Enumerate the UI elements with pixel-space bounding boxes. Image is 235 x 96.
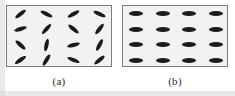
- texture-element-lozenge: [129, 27, 143, 32]
- texture-element-lozenge: [129, 11, 143, 16]
- texture-element-lozenge: [182, 58, 196, 63]
- caption-panel-a: (a): [6, 72, 112, 90]
- texture-element-lozenge: [209, 42, 223, 47]
- texture-element-lozenge: [43, 38, 50, 52]
- panel-b-element-array: [123, 6, 227, 66]
- texture-element-lozenge: [42, 54, 52, 67]
- texture-element-lozenge: [95, 38, 105, 51]
- texture-element-lozenge: [93, 55, 106, 66]
- texture-element-lozenge: [66, 41, 80, 48]
- texture-element-lozenge: [66, 56, 80, 65]
- panel-a-element-array: [7, 6, 111, 66]
- texture-element-lozenge: [182, 11, 196, 16]
- texture-element-lozenge: [209, 58, 223, 63]
- texture-element-lozenge: [182, 42, 196, 47]
- texture-element-lozenge: [156, 11, 170, 16]
- texture-element-lozenge: [40, 9, 53, 18]
- texture-element-lozenge: [156, 42, 170, 47]
- texture-element-lozenge: [129, 58, 143, 63]
- texture-element-lozenge: [129, 42, 143, 47]
- texture-element-lozenge: [67, 9, 80, 19]
- texture-element-lozenge: [14, 55, 27, 66]
- panel-b: [122, 5, 228, 67]
- caption-panel-b: (b): [122, 72, 228, 90]
- scan-edge-smudge-bottom: [0, 91, 235, 96]
- texture-element-lozenge: [209, 11, 223, 16]
- texture-element-lozenge: [13, 26, 27, 33]
- texture-element-lozenge: [14, 8, 27, 19]
- texture-element-lozenge: [93, 9, 107, 18]
- texture-element-lozenge: [209, 27, 223, 32]
- texture-element-lozenge: [156, 27, 170, 32]
- texture-element-lozenge: [182, 27, 196, 32]
- texture-element-lozenge: [14, 39, 26, 51]
- texture-element-lozenge: [94, 23, 105, 36]
- texture-element-lozenge: [67, 24, 80, 35]
- panel-a: [6, 5, 112, 67]
- texture-element-lozenge: [41, 23, 53, 35]
- scan-edge-smudge-left: [0, 0, 5, 96]
- texture-element-lozenge: [156, 58, 170, 63]
- figure-root: (a) (b): [0, 0, 235, 96]
